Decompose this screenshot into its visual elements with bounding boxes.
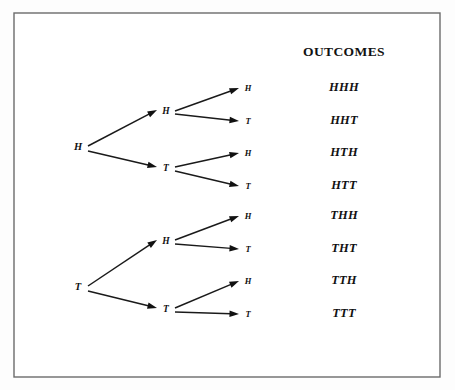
outcome-item-HTH: HTH	[329, 145, 359, 159]
leaf-node-5-T: T	[245, 244, 251, 254]
leaf-node-3-T: T	[245, 181, 251, 191]
outcome-item-TTH: TTH	[331, 273, 358, 287]
level2-node-0-H: H	[161, 106, 170, 116]
leaf-node-4-H: H	[244, 211, 252, 221]
figure-border-frame	[14, 13, 440, 377]
outcomes-column-heading: OUTCOMES	[303, 44, 385, 59]
outcome-item-HTT: HTT	[330, 178, 358, 192]
root-node-1-T: T	[75, 281, 82, 292]
level2-node-2-H: H	[161, 236, 170, 246]
outcome-item-HHT: HHT	[329, 113, 359, 127]
outcome-item-HHH: HHH	[328, 80, 360, 94]
probability-tree-figure: HTHTHTHTHTHTHT OUTCOMES HHHHHTHTHHTTTHHT…	[0, 0, 455, 390]
outcome-item-TTT: TTT	[332, 306, 357, 320]
leaf-node-1-T: T	[245, 116, 251, 126]
outcome-item-THT: THT	[331, 241, 358, 255]
leaf-node-6-H: H	[244, 276, 252, 286]
root-node-0-H: H	[73, 141, 83, 152]
leaf-node-2-H: H	[244, 148, 252, 158]
outcome-item-THH: THH	[330, 208, 359, 222]
leaf-node-0-H: H	[244, 83, 252, 93]
tree-diagram-canvas: HTHTHTHTHTHTHT OUTCOMES HHHHHTHTHHTTTHHT…	[0, 0, 455, 390]
leaf-node-7-T: T	[245, 309, 251, 319]
